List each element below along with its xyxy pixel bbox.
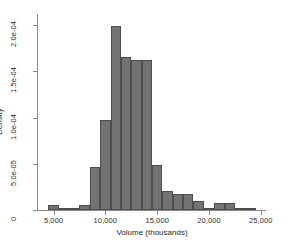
histogram-bar xyxy=(162,191,172,210)
y-tick-label: 2.0e-04 xyxy=(9,21,18,47)
histogram-bar xyxy=(193,201,203,210)
y-tick-label: 0 xyxy=(9,217,18,221)
histogram-bar xyxy=(100,120,110,210)
histogram-bar xyxy=(121,57,131,210)
x-tick-label: 25,000 xyxy=(249,216,273,225)
x-axis-title: Volume (thousands) xyxy=(0,228,304,237)
x-tick-mark xyxy=(261,211,262,215)
histogram-bars xyxy=(38,14,266,210)
histogram-bar xyxy=(90,167,100,210)
y-tick-mark xyxy=(33,210,37,211)
y-tick-label: 1.0e-04 xyxy=(9,113,18,139)
histogram-bar xyxy=(214,203,224,210)
histogram-bar xyxy=(173,194,183,210)
histogram-chart: 5,00010,00015,00020,00025,000 05.0e-051.… xyxy=(0,0,304,244)
x-tick-mark xyxy=(54,211,55,215)
y-tick-label: 1.5e-04 xyxy=(9,67,18,93)
y-tick-mark xyxy=(33,71,37,72)
x-tick-mark xyxy=(105,211,106,215)
y-tick-label: 5.0e-05 xyxy=(9,160,18,186)
y-tick-mark xyxy=(33,25,37,26)
histogram-bar xyxy=(225,203,235,210)
x-tick-mark xyxy=(157,211,158,215)
x-tick-label: 15,000 xyxy=(145,216,169,225)
x-tick-label: 5,000 xyxy=(44,216,63,225)
histogram-bar xyxy=(183,194,193,210)
x-axis-line xyxy=(37,210,266,211)
y-axis-title: Density xyxy=(0,108,4,135)
plot-area xyxy=(38,14,266,210)
x-tick-label: 20,000 xyxy=(197,216,221,225)
histogram-bar xyxy=(131,60,141,210)
histogram-bar xyxy=(152,165,162,210)
y-tick-mark xyxy=(33,118,37,119)
histogram-bar xyxy=(142,60,152,210)
y-axis-line xyxy=(37,14,38,210)
y-tick-mark xyxy=(33,164,37,165)
x-tick-label: 10,000 xyxy=(94,216,118,225)
x-tick-mark xyxy=(209,211,210,215)
histogram-bar xyxy=(111,26,121,210)
